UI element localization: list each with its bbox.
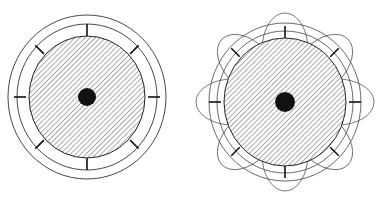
center-hub (275, 92, 295, 112)
center-hub (78, 88, 96, 106)
figure-canvas (0, 0, 382, 204)
